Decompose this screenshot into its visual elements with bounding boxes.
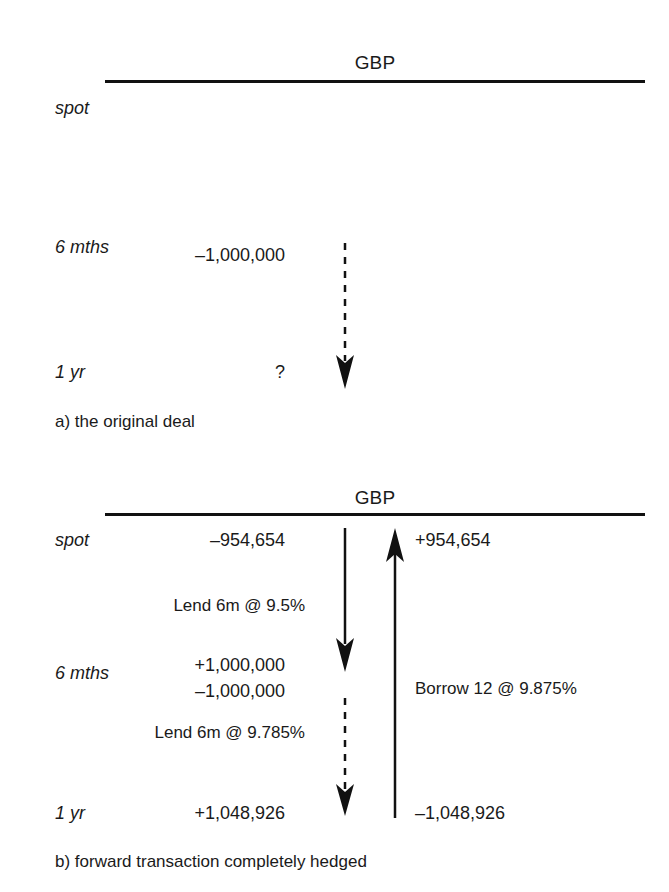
row-label-spot-a: spot [55, 98, 89, 119]
note-lend-first-leg: Lend 6m @ 9.5% [55, 596, 305, 616]
caption-panel-b: b) forward transaction completely hedged [55, 852, 367, 872]
caption-panel-a: a) the original deal [55, 412, 195, 432]
note-lend-second-leg: Lend 6m @ 9.785% [55, 723, 305, 743]
amount-spot-inflow-b: +954,654 [415, 530, 491, 551]
amount-1yr-inflow-b: +1,048,926 [55, 803, 285, 824]
timeline-rule-a [105, 80, 645, 83]
amount-1yr-unknown-a: ? [55, 362, 285, 383]
note-borrow-12m: Borrow 12 @ 9.875% [415, 679, 577, 699]
currency-header-gbp-a: GBP [105, 52, 645, 74]
forward-flow-arrow-a [333, 243, 357, 391]
borrow-12m-arrow [383, 528, 407, 818]
timeline-rule-b [105, 513, 645, 516]
currency-header-gbp-b: GBP [105, 487, 645, 509]
amount-6mths-inflow-b: +1,000,000 [55, 655, 285, 676]
amount-6mths-outflow-a: –1,000,000 [55, 245, 285, 266]
amount-6mths-outflow-b: –1,000,000 [55, 681, 285, 702]
amount-spot-outflow-b: –954,654 [55, 530, 285, 551]
lend-first-leg-arrow [333, 528, 357, 674]
lend-second-leg-arrow [333, 698, 357, 818]
amount-1yr-outflow-b: –1,048,926 [415, 803, 505, 824]
